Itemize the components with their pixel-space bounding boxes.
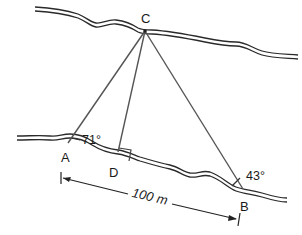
label-A: A <box>61 150 70 165</box>
line-CD <box>118 31 145 152</box>
label-C: C <box>141 11 150 26</box>
distance-label: 100 m <box>131 185 170 208</box>
top-river-bank <box>35 7 298 59</box>
line-CB <box>145 31 243 189</box>
angle-label-B: 43° <box>246 169 265 183</box>
angle-label-A: 71° <box>82 133 101 147</box>
river-triangle-diagram: C A D B 71° 43° 100 m <box>0 0 302 235</box>
line-CA <box>68 31 145 143</box>
label-D: D <box>109 165 118 180</box>
label-B: B <box>240 199 249 214</box>
point-C-marker <box>143 29 147 33</box>
